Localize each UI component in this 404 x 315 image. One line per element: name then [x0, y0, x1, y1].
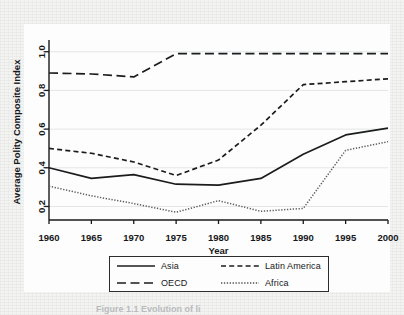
x-tick-label: 1965 [81, 232, 103, 243]
legend-swatch-oecd [116, 279, 156, 287]
legend-item-latin-america[interactable]: Latin America [214, 261, 330, 271]
y-axis-title: Average Polity Composite Index [11, 59, 22, 205]
x-tick-label: 1970 [123, 232, 144, 243]
x-axis-title: Year [208, 245, 228, 256]
legend-item-oecd[interactable]: OECD [110, 278, 214, 288]
series-line-asia [49, 128, 388, 185]
chart-legend: Asia Latin America OECD [109, 256, 329, 292]
legend-label-latin-america: Latin America [265, 261, 321, 271]
x-tick-label: 1980 [208, 232, 229, 243]
x-tick-label: 2000 [377, 232, 398, 243]
axes [49, 40, 388, 220]
x-axis-ticks: 196019651970197519801985199019952000 [38, 220, 398, 243]
legend-swatch-asia [116, 262, 156, 270]
y-tick-label: 0.6 [37, 122, 48, 135]
figure-caption: Figure 1.1 Evolution of li [96, 303, 308, 315]
figure-caption-text: Figure 1.1 Evolution of li [96, 303, 308, 315]
legend-swatch-africa [220, 279, 260, 287]
y-tick-label: 0.4 [37, 160, 48, 174]
y-tick-label: 0.8 [37, 84, 48, 97]
y-tick-label: 0.2 [37, 200, 48, 213]
legend-label-africa: Africa [265, 278, 289, 288]
legend-item-africa[interactable]: Africa [214, 278, 330, 288]
y-axis-ticks: 0.20.40.60.81.0 [37, 45, 50, 213]
gridlines [49, 52, 388, 207]
data-series [49, 54, 388, 213]
x-tick-label: 1960 [38, 232, 59, 243]
legend-swatch-latin-america [220, 262, 260, 270]
x-tick-label: 1995 [335, 232, 357, 243]
x-tick-label: 1975 [166, 232, 188, 243]
legend-label-asia: Asia [161, 261, 179, 271]
figure-root: 0.20.40.60.81.0 196019651970197519801985… [0, 0, 404, 315]
x-tick-label: 1985 [250, 232, 272, 243]
series-line-oecd [49, 54, 388, 77]
x-tick-label: 1990 [293, 232, 314, 243]
y-tick-label: 1.0 [37, 45, 48, 58]
legend-label-oecd: OECD [161, 278, 187, 288]
series-line-latin-america [49, 79, 388, 176]
legend-item-asia[interactable]: Asia [110, 261, 214, 271]
